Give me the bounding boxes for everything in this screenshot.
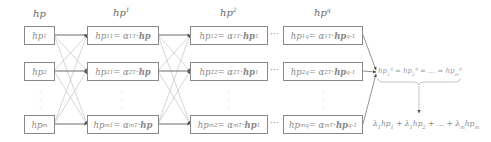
result-expression: λ1hp1 + λ1hp2 + … + λmhpm: [373, 119, 479, 130]
vdots-col3: ···: [320, 88, 326, 112]
node-hp1-1: hp11 = α1T· hp: [87, 26, 159, 45]
vdots-col1: ···: [119, 88, 125, 112]
header-hpq: hpq: [314, 6, 331, 18]
node-hp2-2: hp22 = α2T· hp1: [190, 62, 268, 81]
node-hp-1: hp1: [24, 26, 55, 45]
vdots-col2: ···: [226, 88, 232, 112]
vdots-col0: ···: [37, 88, 43, 112]
node-hp2-m: hpm2 = αmT· hp1: [190, 115, 268, 134]
ellipsis-row-2: ···: [270, 65, 279, 75]
node-hpq-2: hp2q = α2T· hpq-1: [283, 62, 363, 81]
header-hp2: hp2: [220, 6, 237, 18]
header-hp1: hp1: [113, 6, 130, 18]
node-hp-m: hpm: [24, 115, 55, 134]
ellipsis-row-m: ···: [270, 118, 279, 128]
node-hp2-1: hp12 = α1T· hp1: [190, 26, 268, 45]
node-hpq-m: hpmq = αmT· hpq-1: [283, 115, 363, 134]
ellipsis-row-1: ···: [270, 29, 279, 39]
node-hpq-1: hp1q = α1T· hpq-1: [283, 26, 363, 45]
header-hp: hp: [33, 8, 46, 19]
node-hp1-2: hp21 = α2T· hp: [87, 62, 159, 81]
node-hp1-m: hpm1 = αmT· hp: [87, 115, 159, 134]
node-hp-2: hp2: [24, 62, 55, 81]
convergence-expression: hp1q ≈ hp2q ≈ … ≈ hpmq: [378, 66, 462, 77]
